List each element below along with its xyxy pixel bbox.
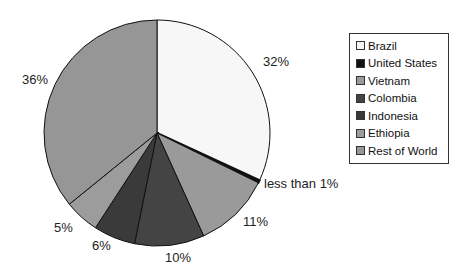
legend-item-vietnam: Vietnam bbox=[350, 72, 448, 90]
legend-swatch bbox=[356, 129, 365, 138]
legend-item-united-states: United States bbox=[350, 55, 448, 73]
legend-label: Brazil bbox=[368, 40, 397, 52]
legend-swatch bbox=[356, 41, 365, 50]
legend-label: Colombia bbox=[368, 92, 417, 104]
legend-item-indonesia: Indonesia bbox=[350, 107, 448, 125]
legend-item-ethiopia: Ethiopia bbox=[350, 125, 448, 143]
legend-label: Indonesia bbox=[368, 110, 418, 122]
legend-item-brazil: Brazil bbox=[350, 37, 448, 55]
legend-label: Ethiopia bbox=[368, 127, 410, 139]
legend-swatch bbox=[356, 59, 365, 68]
legend-item-colombia: Colombia bbox=[350, 90, 448, 108]
legend-label: Rest of World bbox=[368, 145, 437, 157]
data-label-united-states: less than 1% bbox=[264, 176, 339, 191]
legend-label: United States bbox=[368, 57, 437, 69]
legend-swatch bbox=[356, 76, 365, 85]
data-label-brazil: 32% bbox=[263, 54, 289, 69]
legend-swatch bbox=[356, 146, 365, 155]
data-label-colombia: 10% bbox=[165, 250, 191, 265]
data-label-rest-of-world: 36% bbox=[22, 72, 48, 87]
legend-swatch bbox=[356, 94, 365, 103]
data-label-vietnam: 11% bbox=[243, 214, 268, 229]
legend-item-rest-of-world: Rest of World bbox=[350, 142, 448, 160]
data-label-indonesia: 6% bbox=[92, 238, 111, 253]
legend-label: Vietnam bbox=[368, 75, 410, 87]
legend: BrazilUnited StatesVietnamColombiaIndone… bbox=[349, 33, 449, 164]
data-label-ethiopia: 5% bbox=[54, 220, 73, 235]
legend-swatch bbox=[356, 111, 365, 120]
